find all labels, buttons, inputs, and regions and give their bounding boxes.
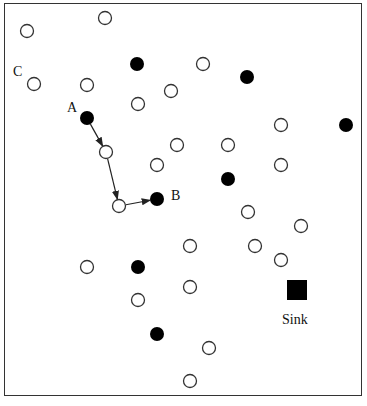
open-node <box>171 139 184 152</box>
open-node <box>275 159 288 172</box>
network-diagram <box>0 0 367 406</box>
label-sink: Sink <box>282 313 308 327</box>
path-edges <box>90 124 150 205</box>
open-node <box>113 200 126 213</box>
open-node <box>184 240 197 253</box>
filled-node <box>130 57 144 71</box>
filled-node <box>339 118 353 132</box>
open-node <box>81 261 94 274</box>
open-node <box>242 206 255 219</box>
open-node <box>21 25 34 38</box>
label-c: C <box>13 65 22 79</box>
path-edge <box>108 159 118 199</box>
label-a: A <box>67 101 77 115</box>
filled-node <box>80 111 94 125</box>
label-b: B <box>171 189 180 203</box>
filled-node <box>150 327 164 341</box>
filled-node <box>240 70 254 84</box>
open-node <box>249 240 262 253</box>
filled-node <box>131 260 145 274</box>
open-node <box>222 139 235 152</box>
open-node <box>295 220 308 233</box>
open-node <box>197 58 210 71</box>
open-node <box>203 342 216 355</box>
open-node <box>184 375 197 388</box>
sink-node <box>287 280 307 300</box>
sensor-nodes-filled <box>80 57 353 341</box>
path-edge <box>90 124 102 146</box>
open-node <box>132 294 145 307</box>
open-node <box>99 12 112 25</box>
filled-node <box>150 192 164 206</box>
open-node <box>165 85 178 98</box>
path-edge <box>126 200 150 204</box>
filled-node <box>221 172 235 186</box>
open-node <box>184 281 197 294</box>
sensor-nodes-open <box>21 12 308 388</box>
open-node <box>132 98 145 111</box>
open-node <box>100 146 113 159</box>
open-node <box>151 159 164 172</box>
open-node <box>81 79 94 92</box>
open-node <box>275 254 288 267</box>
open-node <box>28 78 41 91</box>
open-node <box>275 119 288 132</box>
